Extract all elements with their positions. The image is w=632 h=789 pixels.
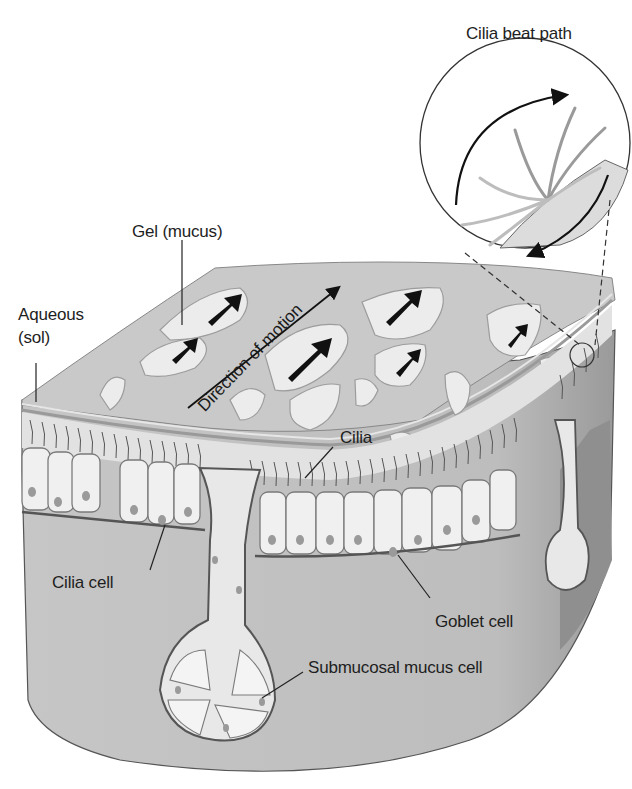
label-aqueous: Aqueous xyxy=(18,305,84,325)
label-cilia: Cilia xyxy=(340,428,372,448)
label-submucosal-mucus-cell: Submucosal mucus cell xyxy=(308,658,482,678)
label-gel-mucus: Gel (mucus) xyxy=(132,222,222,242)
label-sol: (sol) xyxy=(18,328,50,348)
label-cilia-beat-path: Cilia beat path xyxy=(466,24,572,44)
label-cilia-cell: Cilia cell xyxy=(52,573,113,593)
label-goblet-cell: Goblet cell xyxy=(435,612,513,632)
